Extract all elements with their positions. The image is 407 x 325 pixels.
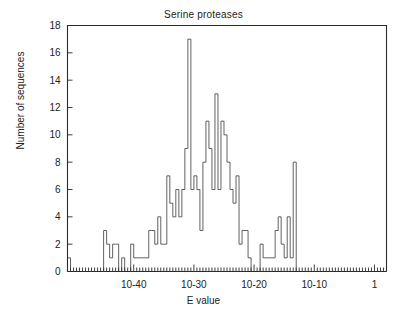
histogram-plot: 024681012141618 10-4010-3010-2010-101	[0, 0, 407, 325]
x-tick-label: 10-40	[121, 279, 147, 290]
x-tick-label: 10-20	[241, 279, 267, 290]
chart-figure: Serine proteases Number of sequences E v…	[0, 0, 407, 325]
y-tick-label: 0	[55, 266, 61, 277]
x-axis-ticks: 10-4010-3010-2010-101	[68, 265, 387, 290]
histogram-outline	[68, 39, 384, 271]
y-tick-label: 6	[55, 184, 61, 195]
y-tick-label: 12	[49, 102, 61, 113]
y-tick-label: 8	[55, 157, 61, 168]
x-tick-label: 10-30	[181, 279, 207, 290]
y-tick-label: 18	[49, 20, 61, 31]
x-tick-label: 10-10	[301, 279, 327, 290]
y-axis-ticks: 024681012141618	[49, 20, 72, 277]
y-tick-label: 10	[49, 129, 61, 140]
y-tick-label: 14	[49, 75, 61, 86]
y-tick-label: 4	[55, 211, 61, 222]
histogram-bars	[68, 39, 387, 271]
x-tick-label: 1	[372, 279, 378, 290]
y-tick-label: 16	[49, 47, 61, 58]
y-tick-label: 2	[55, 239, 61, 250]
